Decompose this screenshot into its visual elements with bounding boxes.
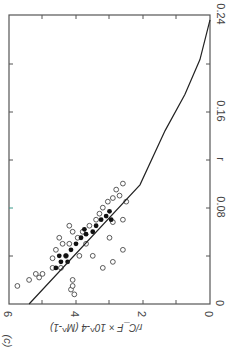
panel-label: (c) [2,335,14,348]
open-data-point [27,278,32,283]
plot-frame [9,15,210,304]
filled-data-point [94,223,99,228]
open-data-point [67,241,72,246]
open-data-point [94,217,99,222]
open-data-point [110,196,115,201]
open-data-point [105,199,110,204]
x-tick-0.16: 0.16 [215,100,227,121]
y-axis-label: r/C_F × 10^-4 (M^-1) [50,322,142,333]
open-data-point [100,205,105,210]
open-data-point [67,223,72,228]
open-data-point [70,229,75,234]
filled-data-point [82,227,87,232]
open-data-point [114,187,119,192]
filled-data-point [104,214,109,219]
filled-data-point [99,217,104,222]
filled-data-point [74,241,79,246]
y-tick-6: 6 [2,311,14,317]
x-tick-0.24: 0.24 [215,3,227,24]
axis-ticks [9,15,210,304]
x-label: r [215,157,227,161]
y-tick-0: 0 [203,311,215,317]
y-tick-4: 4 [69,311,81,317]
open-data-point [121,181,126,186]
y-tick-2: 2 [136,311,148,317]
open-data-point [70,284,75,289]
open-data-point [15,284,20,289]
open-data-point [90,253,95,258]
open-data-point [57,235,62,240]
open-data-point [33,271,38,276]
open-data-point [54,247,59,252]
open-data-point [97,211,102,216]
open-data-point [40,271,45,276]
data-series [15,20,210,304]
open-data-point [107,235,112,240]
open-data-point [60,241,65,246]
open-data-point [117,193,122,198]
x-tick-0: 0 [214,300,226,306]
fitted-curve [29,20,210,304]
open-data-point [100,265,105,270]
scatter-plot [0,0,233,355]
x-tick-0.08: 0.08 [215,196,227,217]
open-data-point [77,253,82,258]
filled-data-point [79,235,84,240]
open-data-point [121,247,126,252]
filled-data-point [64,253,69,258]
filled-data-point [107,209,112,214]
filled-data-point [69,247,74,252]
open-data-point [87,223,92,228]
open-data-point [50,256,55,261]
open-data-point [72,292,77,297]
open-data-point [121,217,126,222]
open-data-point [70,278,75,283]
filled-data-point [57,253,62,258]
open-data-point [110,259,115,264]
filled-data-point [54,265,59,270]
filled-data-point [84,232,89,237]
filled-data-point [59,259,64,264]
